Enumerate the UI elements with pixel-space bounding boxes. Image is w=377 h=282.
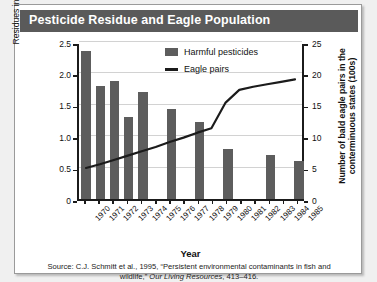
chart-legend: Harmful pesticides Eagle pairs [165,47,258,81]
y-left-tick-label: 1.0 [45,133,71,143]
legend-item-line: Eagle pairs [165,64,258,74]
x-tick-mark [226,201,228,204]
page-background: Pesticide Residue and Eagle Population R… [0,0,377,282]
y-left-tick-mark [73,138,77,140]
x-tick-label-1985: 1985 [306,204,325,223]
y-right-tick-label: 20 [312,70,321,80]
x-tick-mark [254,201,256,204]
source-journal: Our Living Resources [149,272,222,281]
legend-label-line: Eagle pairs [184,64,229,74]
x-tick-mark [297,201,299,204]
y-left-tick-mark [73,201,77,203]
source-suffix: , 413–416. [222,272,258,281]
title-bar: Pesticide Residue and Eagle Population [20,10,358,32]
y-left-tick-label: 2.0 [45,70,71,80]
y-axis-right-label: Number of bald eagle pairs in the conter… [337,40,357,192]
x-tick-mark [240,201,242,204]
y-right-tick-mark [304,138,308,140]
x-tick-mark [98,201,100,204]
legend-swatch-icon [165,48,178,56]
x-tick-mark [112,201,114,204]
x-tick-mark [169,201,171,204]
page-title: Pesticide Residue and Eagle Population [29,13,270,27]
y-right-tick-label: 25 [312,39,321,49]
y-left-tick-mark [73,44,77,46]
x-tick-mark [198,201,200,204]
x-tick-mark [183,201,185,204]
x-tick-mark [127,201,129,204]
y-right-tick-mark [304,44,308,46]
y-right-tick-mark [304,201,308,203]
x-tick-mark [141,201,143,204]
y-left-tick-mark [73,107,77,109]
legend-label-bars: Harmful pesticides [184,47,258,57]
y-right-tick-label: 5 [312,164,317,174]
y-right-tick-label: 0 [312,196,317,206]
x-tick-mark [283,201,285,204]
gridline [79,41,302,42]
y-left-tick-mark [73,170,77,172]
legend-item-bars: Harmful pesticides [165,47,258,57]
y-right-tick-label: 15 [312,101,321,111]
y-left-tick-label: 0.5 [45,164,71,174]
x-tick-mark [84,201,86,204]
y-left-tick-label: 2.5 [45,39,71,49]
x-tick-mark [269,201,271,204]
y-right-tick-mark [304,107,308,109]
y-left-tick-mark [73,75,77,77]
eagle-pairs-line [86,79,295,168]
y-right-tick-label: 10 [312,133,321,143]
y-right-tick-mark [304,170,308,172]
legend-line-icon [165,68,178,71]
x-axis-label: Year [77,248,304,259]
y-left-tick-label: 1.5 [45,101,71,111]
y-right-tick-mark [304,75,308,77]
x-tick-mark [212,201,214,204]
x-tick-mark [155,201,157,204]
y-axis-left-label: Residues in U.S. freshewater fish (ppm) [11,0,21,46]
figure-card: Pesticide Residue and Eagle Population R… [14,4,362,274]
plot-area-wrapper: Residues in U.S. freshewater fish (ppm) … [15,32,363,275]
source-note: Source: C.J. Schmitt et al., 1995, “Pers… [43,262,335,281]
y-left-tick-label: 0 [45,196,71,206]
